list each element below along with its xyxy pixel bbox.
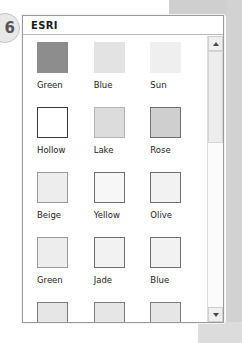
backdrop-bottom-shade — [198, 322, 242, 343]
swatch-label: Blue — [94, 80, 113, 90]
swatch-cell[interactable]: Yellow — [94, 172, 151, 237]
swatch-label: Beige — [37, 210, 61, 220]
swatch-label: Green — [37, 80, 63, 90]
swatch-row: BeigeYellowOlive — [37, 172, 207, 237]
swatch-cell[interactable]: Sun — [150, 42, 207, 107]
chevron-up-icon — [213, 42, 219, 46]
swatch-cell[interactable]: Blue — [150, 237, 207, 302]
color-swatch[interactable] — [150, 172, 181, 203]
swatch-label: Sun — [150, 80, 166, 90]
swatch-label: Yellow — [94, 210, 120, 220]
swatch-grid: GreenBlueSunHollowLakeRoseBeigeYellowOli… — [23, 36, 207, 322]
esri-palette-dialog: ESRI GreenBlueSunHollowLakeRoseBeigeYell… — [22, 15, 224, 323]
swatch-row — [37, 302, 207, 322]
swatch-label: Rose — [150, 145, 170, 155]
swatch-cell[interactable]: Jade — [94, 237, 151, 302]
color-swatch[interactable] — [94, 107, 125, 138]
scrollbar-thumb[interactable] — [208, 51, 223, 143]
color-swatch[interactable] — [37, 172, 68, 203]
annotation-badge: 6 — [0, 13, 20, 43]
swatch-cell[interactable]: Lake — [94, 107, 151, 172]
backdrop-right-band — [226, 0, 242, 343]
color-swatch[interactable] — [150, 302, 181, 322]
swatch-cell[interactable] — [150, 302, 207, 322]
dialog-header: ESRI — [23, 16, 223, 35]
swatch-label: Green — [37, 275, 63, 285]
color-swatch[interactable] — [37, 42, 68, 73]
color-swatch[interactable] — [94, 42, 125, 73]
color-swatch[interactable] — [94, 302, 125, 322]
color-swatch[interactable] — [150, 237, 181, 268]
color-swatch[interactable] — [37, 107, 68, 138]
swatch-cell[interactable]: Rose — [150, 107, 207, 172]
color-swatch[interactable] — [37, 237, 68, 268]
scrollbar-track[interactable] — [208, 51, 223, 307]
color-swatch[interactable] — [150, 42, 181, 73]
swatch-cell[interactable]: Hollow — [37, 107, 94, 172]
swatch-cell[interactable]: Blue — [94, 42, 151, 107]
annotation-badge-number: 6 — [5, 21, 15, 36]
swatch-cell[interactable]: Olive — [150, 172, 207, 237]
swatch-cell[interactable]: Green — [37, 237, 94, 302]
chevron-down-icon — [213, 313, 219, 317]
color-swatch[interactable] — [94, 172, 125, 203]
swatch-cell[interactable] — [37, 302, 94, 322]
swatch-row: HollowLakeRose — [37, 107, 207, 172]
swatch-row: GreenBlueSun — [37, 42, 207, 107]
swatch-cell[interactable]: Beige — [37, 172, 94, 237]
color-swatch[interactable] — [37, 302, 68, 322]
swatch-grid-viewport: GreenBlueSunHollowLakeRoseBeigeYellowOli… — [23, 36, 207, 322]
swatch-row: GreenJadeBlue — [37, 237, 207, 302]
swatch-label: Lake — [94, 145, 114, 155]
color-swatch[interactable] — [150, 107, 181, 138]
scroll-down-button[interactable] — [208, 307, 223, 322]
swatch-label: Jade — [94, 275, 112, 285]
dialog-title: ESRI — [31, 20, 58, 31]
swatch-label: Olive — [150, 210, 172, 220]
swatch-cell[interactable] — [94, 302, 151, 322]
swatch-cell[interactable]: Green — [37, 42, 94, 107]
vertical-scrollbar[interactable] — [207, 36, 223, 322]
scroll-up-button[interactable] — [208, 36, 223, 51]
color-swatch[interactable] — [94, 237, 125, 268]
swatch-label: Hollow — [37, 145, 65, 155]
swatch-label: Blue — [150, 275, 169, 285]
